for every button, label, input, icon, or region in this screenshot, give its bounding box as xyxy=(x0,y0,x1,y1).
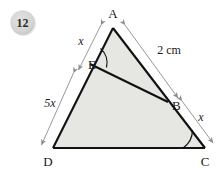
geometry-figure: 12 A B C D E x 5x 2 cm x xyxy=(0,0,223,173)
vertex-label-B: B xyxy=(172,98,181,113)
vertex-label-A: A xyxy=(108,6,118,21)
shaded-region xyxy=(53,28,205,148)
vertex-label-D: D xyxy=(43,154,52,169)
question-number-text: 12 xyxy=(17,16,29,30)
question-number-badge: 12 xyxy=(10,10,36,36)
measure-label-AB: 2 cm xyxy=(157,43,181,57)
vertex-label-E: E xyxy=(88,57,96,72)
measure-label-AE: x xyxy=(77,34,84,48)
measure-label-BC: x xyxy=(197,110,204,124)
vertex-label-C: C xyxy=(201,154,210,169)
measure-label-ED: 5x xyxy=(44,96,56,110)
